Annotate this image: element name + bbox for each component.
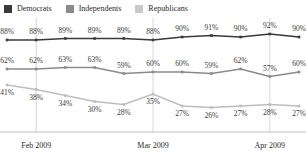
data-label: 91% [205,24,219,32]
legend-label-independents: Independents [79,5,122,13]
data-point[interactable] [210,34,213,37]
data-point[interactable] [64,37,67,40]
data-label: 62% [234,57,248,65]
data-label: 89% [88,27,102,35]
data-point[interactable] [93,66,96,69]
data-point[interactable] [35,39,38,42]
data-label: 27% [292,110,306,118]
data-label: 62% [29,57,43,65]
data-point[interactable] [239,36,242,39]
data-label: 59% [117,62,131,70]
data-point[interactable] [298,36,301,39]
data-label: 63% [59,56,73,64]
data-point[interactable] [123,37,126,40]
x-tick-label: Mar 2009 [137,142,168,150]
data-point[interactable] [93,100,96,103]
data-point[interactable] [152,93,155,96]
data-point[interactable] [181,71,184,74]
legend-swatch-democrats [4,5,12,13]
legend-item-democrats[interactable]: Democrats [4,5,52,13]
legend-label-republicans: Republicans [148,5,188,13]
data-point[interactable] [210,72,213,75]
data-label: 92% [263,22,277,30]
legend-swatch-republicans [135,5,143,13]
data-point[interactable] [6,68,9,71]
data-point[interactable] [269,75,272,78]
data-point[interactable] [181,105,184,108]
legend-item-independents[interactable]: Independents [66,5,122,13]
data-label: 88% [0,28,14,36]
data-label: 35% [146,98,160,106]
data-point[interactable] [181,36,184,39]
data-point[interactable] [298,105,301,108]
data-point[interactable] [64,94,67,97]
data-point[interactable] [123,72,126,75]
data-label: 89% [117,27,131,35]
chart-legend: Democrats Independents Republicans [0,0,306,18]
data-label: 88% [146,28,160,36]
data-point[interactable] [269,103,272,106]
data-label: 89% [59,27,73,35]
data-point[interactable] [123,103,126,106]
data-point[interactable] [6,84,9,87]
data-point[interactable] [298,71,301,74]
line-chart: Democrats Independents Republicans 88%88… [0,0,306,159]
data-label: 30% [88,106,102,114]
data-point[interactable] [93,37,96,40]
data-label: 34% [59,100,73,108]
x-tick-label: Feb 2009 [21,142,51,150]
data-point[interactable] [35,68,38,71]
data-label: 88% [29,28,43,36]
data-label: 59% [205,62,219,70]
data-label: 63% [88,56,102,64]
data-label: 27% [234,110,248,118]
legend-label-democrats: Democrats [17,5,52,13]
plot-area: 88%88%89%89%89%88%90%91%90%92%90%62%62%6… [0,18,306,159]
data-label: 28% [263,109,277,117]
data-label: 90% [292,25,306,33]
data-label: 38% [29,94,43,102]
data-label: 28% [117,109,131,117]
data-label: 62% [0,57,14,65]
data-point[interactable] [152,39,155,42]
data-point[interactable] [6,39,9,42]
data-label: 90% [234,25,248,33]
data-point[interactable] [152,71,155,74]
data-point[interactable] [239,105,242,108]
data-label: 41% [0,89,14,97]
data-point[interactable] [239,68,242,71]
data-label: 60% [146,60,160,68]
x-tick-label: Apr 2009 [255,142,285,150]
data-point[interactable] [210,106,213,109]
data-label: 90% [175,25,189,33]
data-label: 57% [263,65,277,73]
plot-canvas [0,18,306,159]
legend-item-republicans[interactable]: Republicans [135,5,188,13]
data-point[interactable] [269,33,272,36]
data-point[interactable] [35,88,38,91]
data-label: 60% [175,60,189,68]
legend-swatch-independents [66,5,74,13]
data-label: 27% [175,110,189,118]
data-point[interactable] [64,66,67,69]
data-label: 26% [205,112,219,120]
data-label: 60% [292,60,306,68]
